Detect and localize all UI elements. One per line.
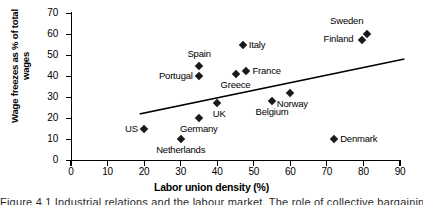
data-point-label: France [252, 66, 280, 76]
data-point-label: Portugal [159, 71, 193, 81]
data-point-label: Germany [180, 124, 218, 134]
data-point-label: Netherlands [156, 145, 205, 155]
data-point-label: Norway [277, 99, 308, 109]
figure-caption-fragment: Figure 4.1 Industrial relations and the … [0, 196, 423, 205]
chart-figure: 0102030405060700102030405060708090 USNet… [0, 0, 423, 205]
data-point-label: UK [213, 109, 226, 119]
x-axis-title: Labor union density (%) [0, 181, 423, 193]
data-point-label: Spain [187, 49, 210, 59]
data-point-label: Finland [324, 34, 354, 44]
data-point-label: US [125, 124, 138, 134]
data-point-label: Denmark [340, 134, 377, 144]
data-point-label: Greece [221, 80, 251, 90]
data-point-label: Sweden [330, 16, 363, 26]
y-axis-title: Wage freezes as % of total wages [9, 1, 31, 131]
data-point-label: Italy [249, 40, 265, 50]
